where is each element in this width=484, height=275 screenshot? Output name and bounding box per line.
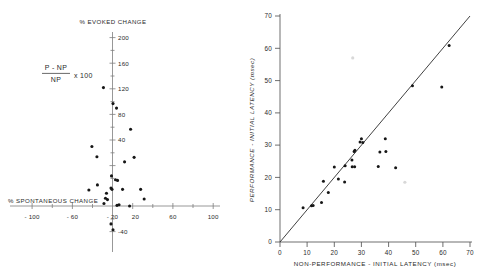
right-x-ticklabel-40: 40 xyxy=(385,249,393,256)
formula-numerator: P - NP xyxy=(45,64,67,71)
right-data-point-17 xyxy=(361,141,364,144)
left-data-point-16 xyxy=(139,188,142,191)
right-data-point-14 xyxy=(353,149,356,152)
right-x-ticklabel-30: 30 xyxy=(358,249,366,256)
figure-container: - 100 - 60 - 20 20 60 100 xyxy=(0,0,484,275)
left-data-point-10 xyxy=(116,179,119,182)
left-y-ticklabel-neg40: -40 xyxy=(118,228,128,235)
right-data-points xyxy=(302,44,451,209)
right-data-point-12 xyxy=(350,158,353,161)
left-data-point-5 xyxy=(95,155,98,158)
identity-reference-line xyxy=(280,16,470,242)
right-y-ticklabel-70: 70 xyxy=(264,12,272,19)
right-data-point-23 xyxy=(411,84,414,87)
right-scatter-svg: 0 10 20 30 40 50 60 70 0 10 xyxy=(242,0,484,275)
left-data-point-26 xyxy=(111,228,114,231)
left-data-point-3 xyxy=(129,128,132,131)
right-y-ticks xyxy=(275,16,280,242)
formula-denominator: NP xyxy=(51,76,61,83)
right-x-ticklabel-60: 60 xyxy=(439,249,447,256)
right-data-point-6 xyxy=(337,178,340,181)
right-data-point-16 xyxy=(360,137,363,140)
right-data-point-2 xyxy=(312,204,315,207)
left-data-point-17 xyxy=(105,192,108,195)
right-x-ticks xyxy=(280,242,470,247)
formula-multiplier: x 100 xyxy=(74,72,93,79)
right-data-point-20 xyxy=(378,150,381,153)
left-x-ticklabel-4: 60 xyxy=(169,213,177,220)
right-faint-mark-1 xyxy=(403,181,406,184)
left-data-point-23 xyxy=(117,203,120,206)
left-y-ticklabel-40: 40 xyxy=(118,136,126,143)
right-data-point-21 xyxy=(384,150,387,153)
left-data-point-1 xyxy=(111,102,114,105)
left-scatter-svg: - 100 - 60 - 20 20 60 100 xyxy=(0,0,242,275)
right-data-point-8 xyxy=(333,166,336,169)
right-y-ticklabel-50: 50 xyxy=(264,77,272,84)
right-x-ticklabels: 0 10 20 30 40 50 60 70 xyxy=(278,249,474,256)
right-y-ticklabels: 0 10 20 30 40 50 60 70 xyxy=(264,12,272,245)
left-y-axis-title: % EVOKED CHANGE xyxy=(79,18,146,25)
left-data-point-14 xyxy=(110,188,113,191)
right-data-point-9 xyxy=(344,164,347,167)
right-data-point-4 xyxy=(327,191,330,194)
right-scatter-panel: 0 10 20 30 40 50 60 70 0 10 xyxy=(242,0,484,275)
right-y-ticklabel-10: 10 xyxy=(264,206,272,213)
left-y-ticklabel-80: 80 xyxy=(118,111,126,118)
left-x-ticklabel-3: 20 xyxy=(132,213,140,220)
left-data-point-19 xyxy=(106,198,109,201)
left-data-point-15 xyxy=(121,188,124,191)
left-y-ticklabel-160: 160 xyxy=(118,60,129,67)
right-y-ticklabel-30: 30 xyxy=(264,141,272,148)
right-y-axis-title: PERFORMANCE - INITIAL LATENCY (msec) xyxy=(248,58,255,203)
right-x-ticklabel-0: 0 xyxy=(278,249,282,256)
right-y-ticklabel-0: 0 xyxy=(268,238,272,245)
left-x-ticklabels: - 100 - 60 - 20 20 60 100 xyxy=(25,213,219,220)
left-y-ticklabel-200: 200 xyxy=(118,34,129,41)
right-data-point-22 xyxy=(384,137,387,140)
right-data-point-18 xyxy=(377,165,380,168)
left-data-point-21 xyxy=(102,202,105,205)
right-data-point-0 xyxy=(302,206,305,209)
right-x-ticklabel-50: 50 xyxy=(412,249,420,256)
right-y-ticklabel-60: 60 xyxy=(264,45,272,52)
left-data-point-24 xyxy=(128,204,131,207)
left-data-point-6 xyxy=(133,156,136,159)
right-data-point-25 xyxy=(448,44,451,47)
right-data-point-15 xyxy=(359,140,362,143)
left-data-point-7 xyxy=(123,160,126,163)
left-scatter-panel: - 100 - 60 - 20 20 60 100 xyxy=(0,0,242,275)
left-x-ticklabel-1: - 60 xyxy=(67,213,79,220)
left-data-point-11 xyxy=(96,183,99,186)
right-x-ticklabel-20: 20 xyxy=(331,249,339,256)
left-data-point-20 xyxy=(143,197,146,200)
right-y-ticklabel-20: 20 xyxy=(264,174,272,181)
left-data-points xyxy=(87,86,145,231)
right-data-point-3 xyxy=(320,201,323,204)
left-data-point-25 xyxy=(109,222,112,225)
right-x-ticklabel-70: 70 xyxy=(466,249,474,256)
left-formula: P - NP NP x 100 xyxy=(42,64,93,83)
left-data-point-8 xyxy=(110,174,113,177)
left-x-ticklabel-5: 100 xyxy=(208,213,219,220)
left-data-point-0 xyxy=(102,86,105,89)
right-x-axis-title: NON-PERFORMANCE - INITIAL LATENCY (msec) xyxy=(294,260,457,267)
left-x-axis-title: % SPONTANEOUS CHANGE xyxy=(8,197,98,204)
right-data-point-5 xyxy=(322,180,325,183)
right-y-ticklabel-40: 40 xyxy=(264,109,272,116)
right-faint-marks xyxy=(351,56,406,183)
right-data-point-24 xyxy=(440,86,443,89)
left-y-ticklabel-120: 120 xyxy=(118,85,129,92)
right-data-point-11 xyxy=(353,165,356,168)
left-data-point-4 xyxy=(90,145,93,148)
left-data-point-12 xyxy=(87,188,90,191)
left-x-ticklabel-0: - 100 xyxy=(25,213,40,220)
right-x-ticklabel-10: 10 xyxy=(303,249,311,256)
right-data-point-7 xyxy=(343,180,346,183)
right-faint-mark-0 xyxy=(351,56,354,59)
left-data-point-2 xyxy=(115,107,118,110)
right-data-point-19 xyxy=(394,166,397,169)
